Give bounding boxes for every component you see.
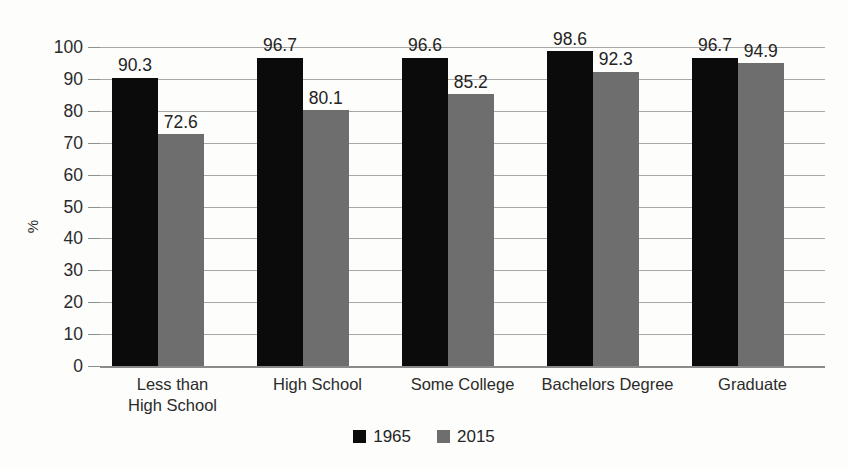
bar-1965[interactable]: 98.6	[547, 51, 593, 366]
y-axis-tick	[88, 175, 100, 176]
y-axis-tick-label: 70	[64, 132, 83, 153]
x-axis-line	[100, 366, 825, 368]
bar-value-label: 96.7	[263, 37, 297, 55]
y-axis-tick-label: 30	[64, 260, 83, 281]
y-axis-tick	[88, 334, 100, 335]
bar-group: 98.692.3	[547, 47, 639, 366]
y-axis-tick	[88, 270, 100, 271]
category-label: Bachelors Degree	[535, 374, 680, 395]
y-axis-tick	[88, 47, 100, 48]
legend-swatch-icon	[437, 430, 450, 443]
bar-group: 96.685.2	[402, 47, 494, 366]
plot-area: 010203040506070809010090.372.696.780.196…	[100, 47, 825, 366]
legend-label: 2015	[457, 428, 495, 445]
bar-group: 90.372.6	[112, 47, 204, 366]
bar-value-label: 94.9	[744, 43, 778, 61]
bar-1965[interactable]: 90.3	[112, 78, 158, 366]
bar-value-label: 90.3	[118, 57, 152, 75]
bar-value-label: 80.1	[309, 90, 343, 108]
category-label: Graduate	[680, 374, 825, 395]
y-axis-tick	[88, 143, 100, 144]
bar-2015[interactable]: 92.3	[593, 72, 639, 366]
bar-value-label: 96.7	[698, 37, 732, 55]
y-axis-tick-label: 10	[64, 324, 83, 345]
y-axis-tick	[88, 238, 100, 239]
bar-value-label: 92.3	[599, 51, 633, 69]
y-axis-tick	[88, 366, 100, 367]
category-label: Some College	[390, 374, 535, 395]
y-axis-tick-label: 80	[64, 100, 83, 121]
y-axis-tick	[88, 79, 100, 80]
bar-2015[interactable]: 85.2	[448, 94, 494, 366]
bar-group: 96.780.1	[257, 47, 349, 366]
y-axis-tick-label: 90	[64, 68, 83, 89]
bar-group: 96.794.9	[692, 47, 784, 366]
legend-item-2015[interactable]: 2015	[437, 428, 495, 445]
y-axis-tick-label: 20	[64, 292, 83, 313]
bar-2015[interactable]: 80.1	[303, 110, 349, 366]
y-axis-tick	[88, 207, 100, 208]
bar-value-label: 96.6	[408, 37, 442, 55]
bar-1965[interactable]: 96.6	[402, 58, 448, 366]
y-axis-tick-label: 0	[73, 356, 83, 377]
bar-2015[interactable]: 72.6	[158, 134, 204, 366]
legend-label: 1965	[373, 428, 411, 445]
bar-2015[interactable]: 94.9	[738, 63, 784, 366]
y-axis-tick-label: 50	[64, 196, 83, 217]
y-axis-tick	[88, 302, 100, 303]
y-axis-tick-label: 40	[64, 228, 83, 249]
chart-legend: 19652015	[0, 428, 848, 445]
legend-swatch-icon	[353, 430, 366, 443]
bar-value-label: 98.6	[553, 31, 587, 49]
y-axis-tick	[88, 111, 100, 112]
y-axis-tick-label: 100	[54, 37, 83, 58]
bar-1965[interactable]: 96.7	[257, 58, 303, 366]
bar-value-label: 72.6	[164, 114, 198, 132]
legend-item-1965[interactable]: 1965	[353, 428, 411, 445]
y-axis-tick-label: 60	[64, 164, 83, 185]
y-axis-title: %	[24, 220, 41, 233]
bar-value-label: 85.2	[454, 74, 488, 92]
bar-1965[interactable]: 96.7	[692, 58, 738, 366]
chart-root: % 010203040506070809010090.372.696.780.1…	[0, 0, 848, 469]
category-label: High School	[245, 374, 390, 395]
category-label: Less than High School	[100, 374, 245, 415]
